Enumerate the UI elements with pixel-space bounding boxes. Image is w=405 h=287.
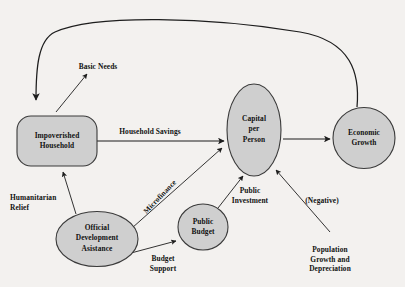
- edge-label-negative: (Negative): [305, 196, 338, 206]
- node-label-economic-growth: EconomicGrowth: [348, 128, 380, 149]
- edge-label-budget-support: BudgetSupport: [150, 254, 177, 273]
- node-label-impoverished-household: ImpoverishedHousehold: [35, 131, 80, 152]
- edge-label-basic-needs: Basic Needs: [79, 62, 118, 72]
- edge-label-population-growth-and-depreciation: PopulationGrowth andDepreciation: [309, 245, 351, 274]
- edge-label-humanitarian-relief: HumanitarianRelief: [10, 193, 56, 212]
- node-label-public-budget: PublicBudget: [191, 217, 214, 238]
- edge-label-public-investment: PublicInvestment: [232, 186, 268, 205]
- node-label-official-development-asistance: OfficialDevelopmentAsistance: [76, 223, 119, 254]
- diagram-canvas: ImpoverishedHousehold OfficialDevelopmen…: [0, 0, 405, 287]
- edge-label-household-savings: Household Savings: [119, 127, 180, 137]
- node-label-capital-per-person: CapitalperPerson: [242, 114, 266, 145]
